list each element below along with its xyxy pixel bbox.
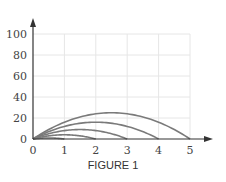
- x-tick-labels: 012345: [30, 144, 194, 157]
- x-axis-arrow-icon: [204, 136, 213, 142]
- x-tick-label: 3: [124, 144, 131, 157]
- x-tick-label: 1: [61, 144, 68, 157]
- x-tick-label: 2: [92, 144, 99, 157]
- y-tick-label: 100: [6, 28, 27, 41]
- y-axis-arrow-icon: [30, 18, 36, 27]
- x-tick-label: 5: [187, 144, 194, 157]
- curves: [33, 113, 190, 139]
- x-tick-label: 0: [30, 144, 37, 157]
- axes: [30, 18, 213, 142]
- y-tick-label: 20: [13, 112, 27, 125]
- x-tick-label: 4: [155, 144, 162, 157]
- y-tick-label: 0: [20, 133, 27, 146]
- figure-caption: FIGURE 1: [88, 159, 139, 171]
- figure-chart: 012345 020406080100 FIGURE 1: [0, 0, 226, 182]
- y-tick-label: 60: [13, 70, 27, 83]
- y-tick-label: 80: [13, 49, 27, 62]
- y-tick-labels: 020406080100: [6, 28, 27, 146]
- y-tick-label: 40: [13, 91, 27, 104]
